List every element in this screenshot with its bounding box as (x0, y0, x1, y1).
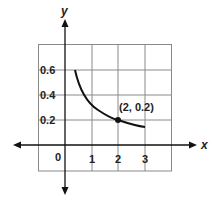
y-tick-0.4: 0.4 (40, 89, 56, 101)
point-label: (2, 0.2) (119, 101, 154, 113)
chart-canvas: y x 0 1 2 3 0.6 0.4 0.2 (2, 0.2) (0, 0, 213, 202)
y-axis-arrow-down-icon (62, 187, 69, 195)
x-axis-arrow-right-icon (189, 142, 197, 149)
y-axis-label: y (60, 4, 69, 18)
axes (18, 24, 193, 190)
origin-label: 0 (55, 151, 61, 163)
y-tick-0.2: 0.2 (40, 114, 55, 126)
x-axis-label: x (200, 138, 209, 152)
x-tick-2: 2 (115, 153, 121, 165)
x-axis-arrow-left-icon (13, 142, 21, 149)
point-marker (115, 117, 121, 123)
y-axis-arrow-up-icon (62, 19, 69, 27)
x-tick-3: 3 (142, 153, 148, 165)
curve-series-smooth (75, 70, 145, 127)
y-tick-0.6: 0.6 (40, 64, 55, 76)
x-tick-1: 1 (89, 153, 95, 165)
